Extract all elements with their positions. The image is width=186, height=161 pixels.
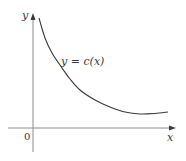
x-axis-arrow-icon [169,126,176,131]
x-axis-label: x [167,132,173,143]
origin-label: 0 [24,132,30,142]
curve-label: y = c(x) [61,56,104,67]
y-axis-label: y [22,10,28,21]
y-axis-arrow-icon [31,13,36,20]
